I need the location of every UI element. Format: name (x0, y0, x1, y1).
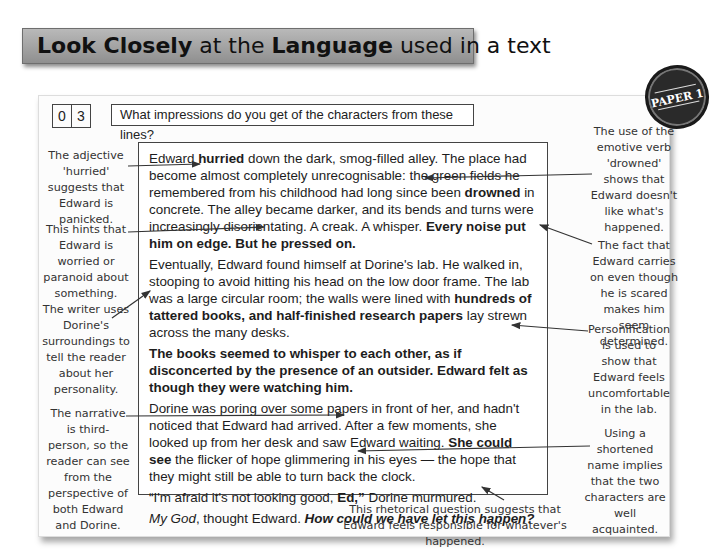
question-number: 0 3 (52, 104, 91, 128)
annotation-hurried: The adjective 'hurried' suggests that Ed… (40, 148, 132, 228)
question-text: What impressions do you get of the chara… (111, 104, 474, 126)
annotation-surroundings: The writer uses Dorine's surroundings to… (38, 302, 134, 398)
question-number-digit: 0 (53, 105, 71, 127)
banner-text-2: used in a text (393, 33, 551, 58)
extract-paragraph: Dorine was poring over some papers in fr… (149, 400, 537, 485)
extract-paragraph: The books seemed to whisper to each othe… (149, 345, 537, 396)
extract-segment: “I'm afraid it's not looking good, (149, 490, 337, 505)
annotation-rhetorical-question: This rhetorical question suggests that E… (330, 502, 580, 550)
annotation-paranoid: This hints that Edward is worried or par… (40, 222, 132, 302)
extract-segment: Edward (149, 151, 198, 166)
extract-paragraph: Eventually, Edward found himself at Dori… (149, 256, 537, 341)
banner-bold-1: Look Closely (37, 33, 192, 58)
extract-segment: the flicker of hope glimmering in his ey… (149, 452, 516, 484)
paper-badge-label: PAPER 1 (650, 87, 705, 111)
annotation-shortened-name: Using a shortened name implies that the … (582, 426, 668, 538)
extract-segment: My God (149, 511, 196, 526)
extract-segment: drowned (465, 185, 521, 200)
extract-segment: The books seemed to whisper to each othe… (149, 346, 528, 395)
extract-paragraph: Edward hurried down the dark, smog-fille… (149, 150, 537, 252)
banner-text-1: at the (192, 33, 271, 58)
extract-segment: , thought Edward. (196, 511, 305, 526)
annotation-third-person: The narrative is third-person, so the re… (46, 406, 130, 534)
annotation-personification: Personification is used to show that Edw… (586, 322, 672, 418)
banner-bold-2: Language (271, 33, 392, 58)
annotation-drowned: The use of the emotive verb 'drowned' sh… (588, 124, 680, 236)
question-number-digit: 3 (71, 105, 90, 127)
section-banner: Look Closely at the Language used in a t… (22, 28, 474, 64)
text-extract: Edward hurried down the dark, smog-fille… (138, 142, 548, 495)
extract-segment: hurried (198, 151, 244, 166)
